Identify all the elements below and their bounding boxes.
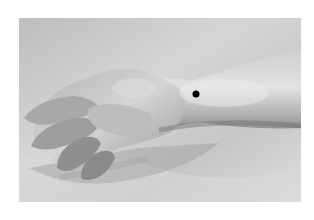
hand-wrist-photo: Grayscale photograph of a relaxed left h… [19,18,301,202]
acupoint-marker [193,91,200,98]
